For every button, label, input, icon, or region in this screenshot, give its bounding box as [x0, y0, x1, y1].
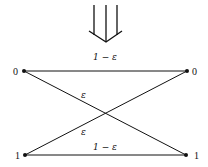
- input-node-1: [23, 153, 27, 157]
- edge-label-0-0: 1 − ε: [93, 52, 117, 62]
- output-label-1: 1: [194, 150, 199, 161]
- input-label-0: 0: [13, 66, 18, 77]
- edge-label-1-1: 1 − ε: [93, 142, 117, 152]
- output-node-1: [184, 153, 188, 157]
- input-node-0: [22, 69, 26, 73]
- input-label-1: 1: [15, 150, 20, 161]
- edge-label-1-0: ε: [81, 127, 86, 137]
- channel-diagram: 0 0 1 1 1 − ε 1 − ε ε ε: [0, 0, 208, 167]
- output-label-0: 0: [192, 66, 197, 77]
- output-node-0: [185, 69, 189, 73]
- edge-label-0-1: ε: [81, 90, 86, 100]
- down-arrow-icon: [89, 5, 122, 42]
